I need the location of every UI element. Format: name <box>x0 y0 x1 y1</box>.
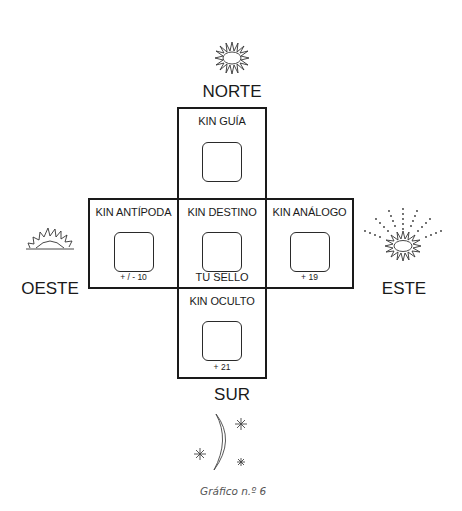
kin-box <box>114 232 154 272</box>
cell-footer: + / - 10 <box>90 272 177 282</box>
cell-footer: TU SELLO <box>179 271 265 283</box>
kin-box <box>202 142 242 182</box>
kin-box <box>202 321 242 361</box>
rising-sun-icon <box>24 226 76 252</box>
radiant-sun-icon <box>362 205 444 265</box>
sun-icon <box>214 40 250 76</box>
kin-box <box>202 232 242 272</box>
cell-footer: + 21 <box>179 362 265 372</box>
cell-kin-oculto: KIN OCULTO + 21 <box>177 287 267 379</box>
cell-title: KIN ANTÍPODA <box>90 206 177 218</box>
north-label: NORTE <box>196 82 268 102</box>
west-label: OESTE <box>18 279 82 299</box>
cell-title: KIN DESTINO <box>179 206 265 218</box>
cell-footer: + 19 <box>267 272 352 282</box>
cell-title: KIN OCULTO <box>179 295 265 307</box>
cell-kin-destino: KIN DESTINO TU SELLO <box>177 198 267 289</box>
cell-title: KIN ANÁLOGO <box>267 206 352 218</box>
cell-kin-guia: KIN GUÍA <box>177 107 267 200</box>
cell-title: KIN GUÍA <box>179 115 265 127</box>
east-label: ESTE <box>372 279 436 299</box>
moon-stars-icon <box>186 412 266 474</box>
south-label: SUR <box>196 385 268 405</box>
cell-kin-antipoda: KIN ANTÍPODA + / - 10 <box>88 198 179 289</box>
figure-caption: Gráfico n.º 6 <box>200 485 266 497</box>
cell-kin-analogo: KIN ANÁLOGO + 19 <box>265 198 354 289</box>
kin-box <box>290 232 330 272</box>
